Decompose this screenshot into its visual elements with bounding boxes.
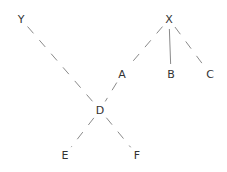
edges-group [28, 27, 204, 148]
node-e: E [62, 149, 69, 162]
edge-x-b [169, 29, 170, 64]
node-a: A [118, 68, 126, 81]
edge-d-e [71, 118, 94, 147]
edge-x-a [128, 27, 162, 67]
edge-a-d [105, 83, 117, 102]
tree-diagram: XYABCDEF [0, 0, 227, 172]
node-b: B [167, 68, 175, 81]
edge-d-f [106, 118, 130, 148]
node-c: C [206, 68, 214, 81]
nodes-group: XYABCDEF [17, 13, 215, 162]
edge-y-d [28, 27, 94, 103]
node-d: D [96, 104, 104, 117]
node-y: Y [17, 13, 25, 26]
node-x: X [165, 13, 173, 26]
node-f: F [134, 149, 140, 162]
edge-x-c [175, 27, 204, 66]
